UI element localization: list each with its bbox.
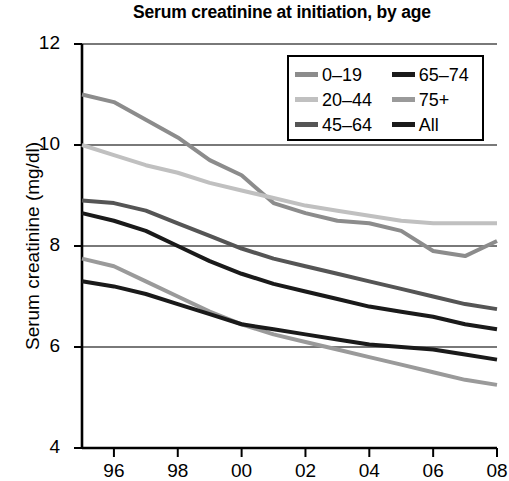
legend-item[interactable]: All — [392, 116, 476, 134]
series-line — [82, 281, 497, 359]
legend-item[interactable]: 20–44 — [295, 91, 392, 109]
legend-swatch-icon — [295, 97, 318, 102]
legend-item[interactable]: 65–74 — [392, 66, 476, 84]
legend-swatch-icon — [392, 72, 415, 77]
legend-label: All — [419, 116, 439, 134]
legend-item[interactable]: 45–64 — [295, 116, 392, 134]
legend-row: 45–64All — [295, 112, 476, 137]
legend: 0–1965–7420–4475+45–64All — [287, 55, 484, 141]
series-line — [82, 213, 497, 329]
series-line — [82, 259, 497, 385]
legend-label: 65–74 — [419, 66, 469, 84]
legend-label: 75+ — [419, 91, 450, 109]
legend-label: 0–19 — [322, 66, 362, 84]
legend-swatch-icon — [392, 122, 415, 127]
legend-swatch-icon — [392, 97, 415, 102]
legend-swatch-icon — [295, 72, 318, 77]
legend-label: 20–44 — [322, 91, 372, 109]
legend-swatch-icon — [295, 122, 318, 127]
legend-item[interactable]: 0–19 — [295, 66, 392, 84]
legend-row: 0–1965–74 — [295, 62, 476, 87]
legend-row: 20–4475+ — [295, 87, 476, 112]
legend-item[interactable]: 75+ — [392, 91, 476, 109]
legend-label: 45–64 — [322, 116, 372, 134]
